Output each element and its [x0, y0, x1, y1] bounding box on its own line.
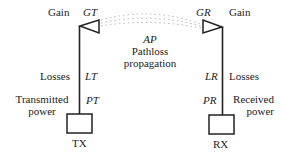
propagation-label-line1: Pathloss — [110, 45, 190, 57]
propagation-label: AP Pathloss propagation — [110, 33, 190, 69]
tx-power-symbol: PT — [86, 94, 99, 106]
tx-box — [67, 114, 92, 133]
rx-gain-label: Gain — [229, 6, 250, 18]
rx-antenna-icon — [203, 20, 222, 33]
tx-losses-label: Losses — [40, 70, 70, 82]
rx-box — [209, 115, 234, 134]
rx-losses-label: Losses — [229, 70, 259, 82]
rx-power-symbol: PR — [203, 94, 216, 106]
tx-gain-label: Gain — [48, 6, 69, 18]
rx-power-label-line1: Received — [228, 93, 274, 105]
tx-losses-symbol: LT — [85, 70, 97, 82]
propagation-label-line2: propagation — [110, 57, 190, 69]
rx-box-label: RX — [213, 138, 228, 150]
tx-antenna-icon — [80, 20, 99, 33]
tx-box-label: TX — [72, 137, 87, 149]
tx-power-label-line1: Transmitted — [14, 93, 70, 105]
rx-gain-symbol: GR — [196, 6, 211, 18]
propagation-symbol: AP — [110, 33, 190, 45]
tx-power-label: Transmitted power — [14, 93, 70, 117]
rx-power-label-line2: power — [228, 105, 274, 117]
tx-power-label-line2: power — [14, 105, 70, 117]
propagation-path — [101, 14, 201, 28]
rx-power-label: Received power — [228, 93, 274, 117]
tx-gain-symbol: GT — [83, 6, 97, 18]
rx-losses-symbol: LR — [205, 70, 218, 82]
